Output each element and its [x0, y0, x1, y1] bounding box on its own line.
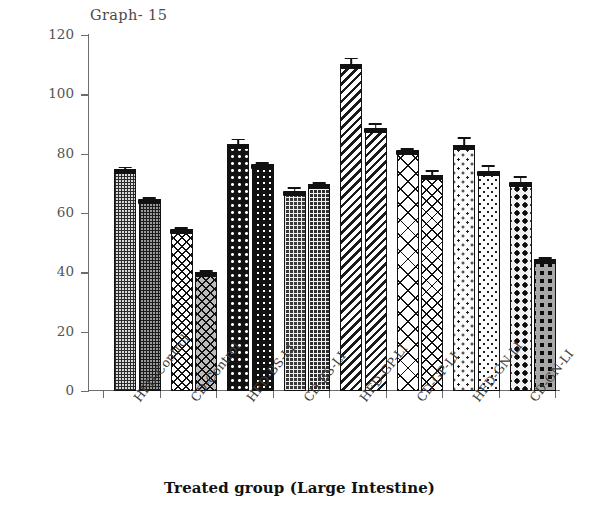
error-bar-cap: [458, 137, 471, 139]
y-tick-label: 80: [34, 145, 74, 161]
error-bar: [407, 148, 409, 151]
x-tick: [386, 391, 387, 398]
x-tick: [555, 391, 556, 398]
plot-area: 020406080100120: [88, 35, 558, 391]
y-tick: [81, 332, 88, 333]
error-bar-cap: [482, 165, 495, 167]
y-tick-label: 0: [34, 382, 74, 398]
error-bar-cap: [288, 187, 301, 189]
x-tick: [329, 391, 330, 398]
y-tick-label: 60: [34, 204, 74, 220]
y-tick-label: 40: [34, 263, 74, 279]
error-bar-cap: [514, 176, 527, 178]
x-axis-title: Treated group (Large Intestine): [0, 479, 599, 497]
error-bar-cap: [426, 170, 439, 172]
bar: [421, 175, 443, 391]
error-bar: [124, 167, 126, 170]
error-bar: [544, 257, 546, 260]
bar-group: [88, 35, 558, 391]
error-bar: [431, 170, 433, 177]
error-bar-cap: [401, 148, 414, 150]
error-bar: [488, 165, 490, 172]
error-bar: [149, 197, 151, 200]
x-tick: [442, 391, 443, 398]
y-tick: [81, 213, 88, 214]
error-bar-cap: [143, 197, 156, 199]
y-tick: [81, 94, 88, 95]
error-bar-cap: [175, 227, 188, 229]
x-tick: [216, 391, 217, 398]
error-bar: [463, 137, 465, 146]
bar: [340, 64, 362, 391]
bar: [478, 171, 500, 391]
error-bar-cap: [232, 139, 245, 141]
error-bar-cap: [369, 123, 382, 125]
y-tick: [81, 272, 88, 273]
error-bar: [520, 176, 522, 184]
x-tick: [103, 391, 104, 398]
error-bar: [205, 270, 207, 273]
x-tick: [499, 391, 500, 398]
bar: [365, 128, 387, 391]
error-bar: [262, 162, 264, 165]
error-bar: [318, 182, 320, 185]
error-bar: [350, 58, 352, 65]
error-bar-cap: [345, 58, 358, 60]
y-tick: [81, 154, 88, 155]
graph-title: Graph- 15: [90, 7, 167, 23]
error-bar: [294, 187, 296, 192]
y-tick-label: 20: [34, 323, 74, 339]
y-tick-label: 100: [34, 85, 74, 101]
bar: [171, 229, 193, 391]
x-tick: [160, 391, 161, 398]
error-bar: [237, 139, 239, 145]
error-bar-cap: [539, 257, 552, 259]
error-bar-cap: [256, 162, 269, 164]
error-bar-cap: [200, 270, 213, 272]
y-tick: [81, 35, 88, 36]
bar: [252, 164, 274, 391]
error-bar: [181, 227, 183, 230]
error-bar-cap: [313, 182, 326, 184]
bar: [308, 184, 330, 391]
y-tick: [81, 391, 88, 392]
x-tick: [273, 391, 274, 398]
error-bar: [375, 123, 377, 129]
y-tick-label: 120: [34, 26, 74, 42]
error-bar-cap: [119, 167, 132, 169]
bar-chart: Graph- 15 SGOT (u/l) 020406080100120 HFD…: [0, 0, 599, 505]
bar: [114, 169, 136, 392]
